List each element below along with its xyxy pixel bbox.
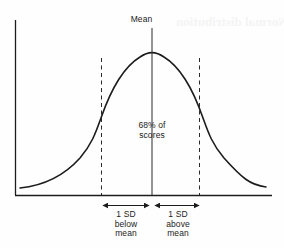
sd-below-mean-label: 1 SD below mean — [96, 210, 156, 239]
normal-distribution-figure: Normal distribution Mean 68% of scores 1… — [0, 0, 284, 248]
sd-above-mean-label: 1 SD above mean — [148, 210, 208, 239]
percent-of-scores-label: 68% of scores — [111, 121, 193, 140]
mean-label: Mean — [0, 15, 284, 25]
